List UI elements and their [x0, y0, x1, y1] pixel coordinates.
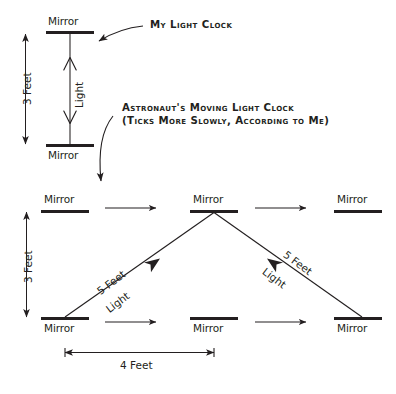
stationary-beam-label: Light — [74, 82, 85, 108]
moving-light-beam-up — [65, 213, 214, 318]
moving-bottom-mirror-label-2: Mirror — [193, 323, 223, 334]
my-clock-callout-label: My Light Clock — [150, 20, 232, 30]
astronaut-callout-line2: (Ticks More Slowly, According to Me) — [122, 116, 329, 126]
moving-height-label: 3 Feet — [23, 250, 34, 283]
moving-bottom-mirror-label-1: Mirror — [44, 323, 74, 334]
stationary-bottom-mirror-label: Mirror — [48, 150, 78, 161]
astronaut-callout-arrow — [100, 116, 113, 181]
moving-light-beam-down — [214, 213, 362, 318]
my-clock-callout-arrow — [99, 26, 143, 41]
light-clock-diagram: Mirror Mirror 3 Feet Light My Light Cloc… — [0, 0, 396, 394]
moving-top-mirror-label-1: Mirror — [44, 194, 74, 205]
stationary-height-label: 3 Feet — [22, 72, 33, 105]
moving-bottom-mirror-label-3: Mirror — [337, 323, 367, 334]
astronaut-callout-label: Astronaut's Moving Light Clock (Ticks Mo… — [122, 103, 329, 126]
moving-top-mirror-label-2: Mirror — [193, 194, 223, 205]
astronaut-callout-line1: Astronaut's Moving Light Clock — [122, 102, 294, 113]
moving-base-label: 4 Feet — [120, 360, 153, 371]
moving-top-mirror-label-3: Mirror — [337, 194, 367, 205]
stationary-top-mirror-label: Mirror — [48, 16, 78, 27]
moving-clock-group — [27, 208, 383, 357]
